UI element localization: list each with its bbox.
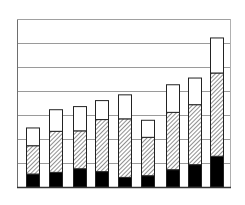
- bar-4: [96, 101, 109, 187]
- bar-7: [167, 85, 180, 187]
- bar-segment-hatch: [96, 120, 109, 172]
- bar-segment-hatch: [74, 131, 87, 169]
- bar-segment-hatch: [211, 73, 224, 156]
- bars: [27, 38, 224, 187]
- bar-segment-hatch: [50, 131, 63, 172]
- bar-segment-none: [142, 120, 155, 137]
- bar-1: [27, 128, 40, 187]
- bar-segment-solid: [74, 169, 87, 187]
- bar-segment-none: [96, 101, 109, 120]
- bar-segment-hatch: [27, 146, 40, 174]
- bar-segment-solid: [189, 165, 202, 187]
- bar-segment-solid: [142, 176, 155, 187]
- bar-6: [142, 120, 155, 187]
- bar-9: [211, 38, 224, 187]
- bar-segment-solid: [119, 177, 132, 187]
- bar-segment-none: [119, 95, 132, 119]
- bar-2: [50, 110, 63, 187]
- bar-segment-hatch: [119, 119, 132, 178]
- bar-segment-none: [189, 78, 202, 105]
- chart-canvas: [0, 0, 245, 205]
- bar-segment-none: [211, 38, 224, 73]
- bar-segment-solid: [96, 172, 109, 187]
- stacked-bar-chart: [0, 0, 245, 205]
- bar-segment-hatch: [189, 105, 202, 165]
- bar-5: [119, 95, 132, 187]
- bar-segment-none: [167, 85, 180, 113]
- bar-8: [189, 78, 202, 187]
- bar-segment-none: [27, 128, 40, 146]
- bar-segment-solid: [50, 172, 63, 187]
- bar-segment-solid: [211, 156, 224, 187]
- bar-segment-hatch: [167, 112, 180, 169]
- bar-segment-hatch: [142, 137, 155, 175]
- bar-segment-none: [74, 107, 87, 131]
- bar-segment-solid: [27, 174, 40, 187]
- bar-3: [74, 107, 87, 187]
- bar-segment-none: [50, 110, 63, 132]
- bar-segment-solid: [167, 170, 180, 187]
